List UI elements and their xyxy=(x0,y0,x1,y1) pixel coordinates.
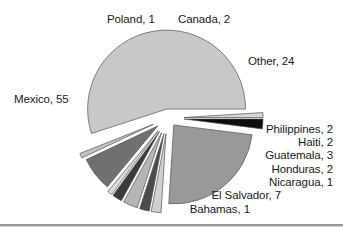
slice-label-bahamas: Bahamas, 1 xyxy=(190,203,250,216)
slice-label-el-salvador: El Salvador, 7 xyxy=(211,189,281,202)
slice-label-haiti: Haiti, 2 xyxy=(298,136,333,149)
slice-label-mexico: Mexico, 55 xyxy=(14,93,69,106)
slice-label-canada: Canada, 2 xyxy=(178,13,230,26)
slice-label-philippines: Philippines, 2 xyxy=(266,123,333,136)
slice-label-honduras: Honduras, 2 xyxy=(271,163,333,176)
bottom-divider-shadow xyxy=(0,226,343,227)
pie-slice-poland[interactable] xyxy=(184,113,263,118)
pie-slice-group xyxy=(80,30,263,213)
slice-label-poland: Poland, 1 xyxy=(107,13,155,26)
pie-chart-canvas xyxy=(0,0,343,234)
pie-chart: Poland, 1 Canada, 2 Other, 24 Mexico, 55… xyxy=(0,0,343,234)
slice-label-nicaragua: Nicaragua, 1 xyxy=(269,176,333,189)
pie-slice-mexico[interactable] xyxy=(88,30,246,133)
slice-label-other: Other, 24 xyxy=(248,55,294,68)
slice-label-guatemala: Guatemala, 3 xyxy=(265,149,333,162)
